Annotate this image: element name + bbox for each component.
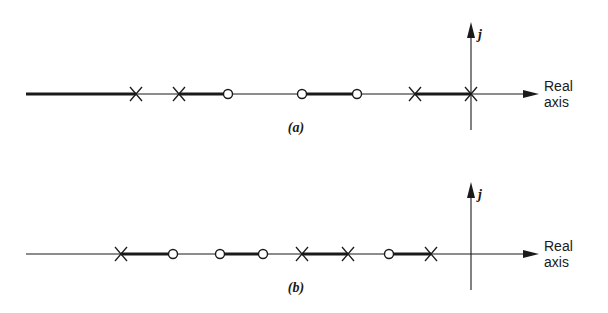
imaginary-axis-label: j: [476, 187, 482, 202]
diagram-b: jRealaxis(b): [26, 182, 573, 296]
real-axis-arrow-icon: [523, 90, 539, 98]
zero-o-icon: [298, 90, 307, 99]
real-axis-label-line1: Real: [544, 238, 573, 254]
imaginary-axis-label: j: [476, 27, 482, 42]
diagram-caption: (a): [288, 120, 304, 136]
real-axis-label-line1: Real: [544, 78, 573, 94]
imaginary-axis-arrow-icon: [467, 182, 475, 198]
real-axis-label-line2: axis: [544, 94, 569, 110]
zero-o-icon: [385, 250, 394, 259]
root-locus-figure: jRealaxis(a) jRealaxis(b): [0, 0, 608, 313]
diagram-a: jRealaxis(a): [26, 22, 573, 136]
real-axis-label-line2: axis: [544, 254, 569, 270]
zero-o-icon: [259, 250, 268, 259]
zero-o-icon: [216, 250, 225, 259]
zero-o-icon: [224, 90, 233, 99]
zero-o-icon: [169, 250, 178, 259]
diagram-caption: (b): [288, 280, 304, 296]
imaginary-axis-arrow-icon: [467, 22, 475, 38]
zero-o-icon: [353, 90, 362, 99]
real-axis-arrow-icon: [523, 250, 539, 258]
